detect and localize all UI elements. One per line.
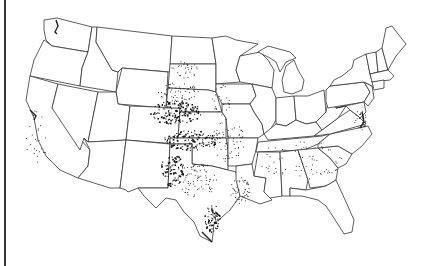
- us-map: [0, 0, 431, 266]
- state-boundaries: [26, 18, 406, 242]
- state-connecticut: [372, 80, 384, 90]
- state-arkansas: [228, 138, 258, 166]
- state-north-dakota: [170, 36, 216, 64]
- state-wyoming: [116, 68, 168, 108]
